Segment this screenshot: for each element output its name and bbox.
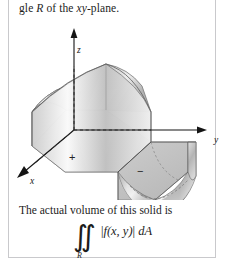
y-axis-label: y <box>214 135 218 145</box>
abs-close: | <box>133 224 136 238</box>
double-integral-symbol: ∬R <box>73 222 96 251</box>
figure-page: gle R of the xy-plane. <box>0 0 225 275</box>
integrand-expression: |f(x, y)| dA <box>96 224 152 239</box>
positive-lobe <box>32 64 151 172</box>
top-text-after: of the <box>43 2 76 14</box>
integral-glyph: ∬ <box>73 220 89 252</box>
surface-figure: z y x + − <box>8 20 216 200</box>
negative-right-face <box>188 142 196 180</box>
area-measure: dA <box>138 224 152 238</box>
integral-region-subscript: R <box>77 252 82 260</box>
z-axis-label: z <box>77 45 81 55</box>
surface-svg <box>8 20 216 200</box>
z-axis-arrowhead <box>71 28 78 38</box>
top-running-text: gle R of the xy-plane. <box>19 1 119 15</box>
plane-symbol: xy <box>77 2 87 14</box>
negative-region-sign: − <box>137 166 143 177</box>
function-arguments: (x, y) <box>107 224 133 238</box>
figure-caption: The actual volume of this solid is <box>19 203 209 218</box>
x-axis-label: x <box>30 176 34 186</box>
positive-region-sign: + <box>69 152 75 163</box>
volume-formula: ∬R|f(x, y)| dA <box>0 222 225 251</box>
x-axis-arrowhead <box>17 166 29 178</box>
formula-inner: ∬R|f(x, y)| dA <box>73 222 152 251</box>
top-text-before: gle <box>19 2 36 14</box>
y-axis-arrowhead <box>197 127 207 134</box>
top-text-tail: -plane. <box>87 2 119 14</box>
